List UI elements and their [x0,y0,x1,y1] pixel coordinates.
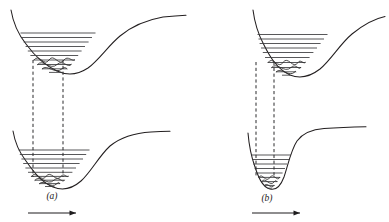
panel-a-label: (a) [46,191,57,202]
lower-potential-curve [248,127,366,189]
panel-b-label: (b) [261,193,272,204]
vibrational-levels [258,35,328,76]
panel-a-upper-state [11,10,186,74]
right-arrow-head-icon [294,211,301,216]
panel-a: (a) [11,10,186,215]
panel-b: (b) [248,10,385,215]
figure-canvas: (a) [0,0,389,222]
panel-b-transition-lines [256,62,274,178]
vibrational-levels [21,33,96,72]
panel-b-upper-state [253,10,385,77]
vibrational-levels [19,150,90,187]
right-arrow-head-icon [70,211,77,216]
panel-a-lower-state [13,131,170,189]
panel-b-axis-arrow [252,211,300,216]
potential-energy-figure: (a) [0,0,389,222]
panel-a-axis-arrow [28,211,76,216]
panel-a-transition-lines [33,60,63,177]
panel-b-lower-state [248,127,366,189]
